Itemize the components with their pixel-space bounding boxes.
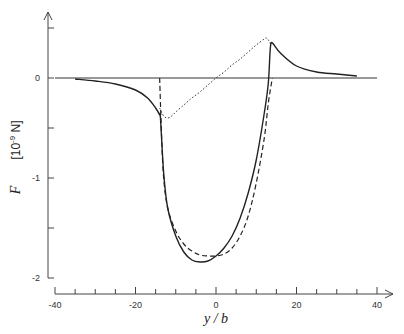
- x-tick-label: 20: [291, 300, 301, 310]
- y-tick-label: 0: [35, 73, 40, 83]
- tick-labels: -40-20020400-1-2: [32, 73, 382, 310]
- series-solid-line: [75, 42, 357, 262]
- x-tick-label: 0: [213, 300, 218, 310]
- y-axis-unit: [10-9 N]: [8, 120, 23, 159]
- x-tick-label: -40: [48, 300, 61, 310]
- x-tick-label: -20: [129, 300, 142, 310]
- y-unit-tail: N]: [9, 120, 23, 135]
- y-tick-label: -2: [32, 273, 40, 283]
- x-tick-label: 40: [372, 300, 382, 310]
- y-unit-base: [10: [9, 143, 23, 160]
- ticks: [48, 28, 377, 294]
- x-axis-title: y / b: [202, 311, 228, 326]
- y-axis-title: F: [8, 185, 23, 195]
- y-tick-label: -1: [32, 173, 40, 183]
- force-chart: -40-20020400-1-2 y / b F [10-9 N]: [0, 0, 404, 334]
